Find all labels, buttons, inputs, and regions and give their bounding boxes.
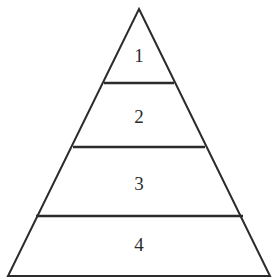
pyramid-diagram: 1 2 3 4 xyxy=(0,0,277,280)
pyramid-tier-label-1: 1 xyxy=(134,45,144,66)
pyramid-tier-label-4: 4 xyxy=(134,234,144,255)
pyramid-tier-label-3: 3 xyxy=(134,173,144,194)
pyramid-tier-label-2: 2 xyxy=(134,106,144,127)
pyramid-svg: 1 2 3 4 xyxy=(0,0,277,280)
